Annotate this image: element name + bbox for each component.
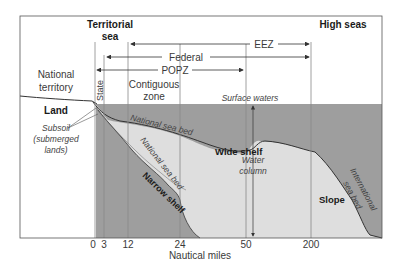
water-column-label-2: column <box>239 166 267 176</box>
subsoil-leader-lines <box>68 108 98 128</box>
national-territory-label-2: territory <box>39 82 73 93</box>
tick-3: 3 <box>101 239 107 250</box>
axis-label: Nautical miles <box>169 250 231 261</box>
territorial-sea-label-2: sea <box>102 31 119 42</box>
popz-label: POPZ <box>161 65 188 76</box>
subsoil-label-3: lands) <box>44 145 67 155</box>
water-column-label-1: Water <box>242 155 266 165</box>
subsoil-label-2: (submerged <box>33 134 79 144</box>
territorial-sea-label-1: Territorial <box>87 19 133 30</box>
tick-200: 200 <box>303 239 320 250</box>
federal-label: Federal <box>169 52 203 63</box>
high-seas-label: High seas <box>319 19 367 30</box>
land-surface-line <box>20 96 97 104</box>
tick-12: 12 <box>122 239 134 250</box>
national-territory-label-1: National <box>38 69 75 80</box>
surface-waters-label: Surface waters <box>222 93 279 103</box>
tick-0: 0 <box>90 239 96 250</box>
maritime-zones-diagram: Territorial sea High seas EEZ Federal PO… <box>0 0 399 269</box>
x-axis: 0 3 12 24 50 200 Nautical miles <box>90 239 320 261</box>
land-label: Land <box>44 105 68 116</box>
contiguous-zone-label-2: zone <box>143 91 165 102</box>
tick-50: 50 <box>240 239 252 250</box>
slope-label: Slope <box>319 194 345 205</box>
subsoil-label-1: Subsoil <box>42 123 71 133</box>
tick-24: 24 <box>174 239 186 250</box>
contiguous-zone-label-1: Contiguous <box>129 79 180 90</box>
state-label: State <box>95 80 105 101</box>
zone-arrows <box>97 44 309 70</box>
eez-label: EEZ <box>254 39 273 50</box>
